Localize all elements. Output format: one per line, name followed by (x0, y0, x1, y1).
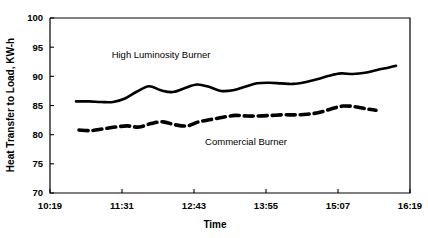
x-tick-label: 12:43 (182, 200, 206, 211)
x-tick-label: 16:19 (398, 200, 422, 211)
series-label-1: High Luminosity Burner (112, 49, 211, 60)
y-tick-label: 70 (32, 187, 43, 198)
y-tick-label: 85 (32, 100, 43, 111)
y-axis-title: Heat Transfer to Load, KW-h (5, 38, 16, 172)
x-axis-title: Time (203, 219, 227, 230)
y-tick-label: 100 (27, 12, 43, 23)
chart-container: 707580859095100 10:1911:3112:4313:5515:0… (0, 0, 428, 238)
y-tick-label: 95 (32, 42, 43, 53)
y-tick-label: 90 (32, 71, 43, 82)
chart-background (0, 0, 428, 238)
y-tick-label: 75 (32, 158, 43, 169)
x-tick-label: 11:31 (110, 200, 134, 211)
heat-transfer-line-chart: 707580859095100 10:1911:3112:4313:5515:0… (0, 0, 428, 238)
series-label-2: Commercial Burner (205, 136, 287, 147)
x-tick-label: 10:19 (38, 200, 62, 211)
x-tick-label: 13:55 (254, 200, 279, 211)
y-tick-label: 80 (32, 129, 43, 140)
x-tick-label: 15:07 (326, 200, 350, 211)
